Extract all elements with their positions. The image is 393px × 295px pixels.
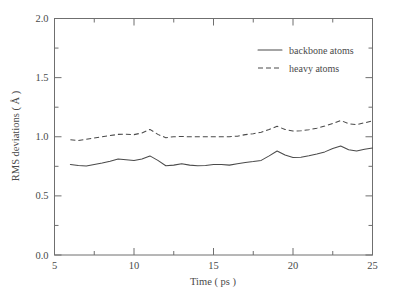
x-axis-tick-labels: 510152025 <box>52 260 378 271</box>
y-tick-label: 0.5 <box>35 190 48 201</box>
x-tick-label: 25 <box>367 260 378 271</box>
y-tick-label: 2.0 <box>35 13 48 24</box>
series-line-heavy-atoms <box>70 120 372 140</box>
plot-canvas: 510152025 0.00.51.01.52.0 Time ( ps ) RM… <box>0 0 393 295</box>
rms-deviation-chart-figure: 510152025 0.00.51.01.52.0 Time ( ps ) RM… <box>0 0 393 295</box>
y-axis-tick-labels: 0.00.51.01.52.0 <box>35 13 48 261</box>
legend-label-heavy-atoms: heavy atoms <box>289 63 339 74</box>
y-tick-label: 1.5 <box>35 72 48 83</box>
legend-label-backbone-atoms: backbone atoms <box>289 45 354 56</box>
data-series-group <box>70 120 372 166</box>
y-tick-label: 0.0 <box>35 250 48 261</box>
y-tick-label: 1.0 <box>35 131 48 142</box>
series-line-backbone-atoms <box>70 146 372 166</box>
x-tick-label: 5 <box>52 260 57 271</box>
x-axis-title: Time ( ps ) <box>190 276 236 288</box>
legend: backbone atoms heavy atoms <box>258 45 354 74</box>
y-axis-title: RMS deviations ( Å ) <box>10 90 22 181</box>
x-tick-label: 10 <box>129 260 140 271</box>
x-tick-label: 20 <box>288 260 299 271</box>
x-tick-label: 15 <box>208 260 219 271</box>
